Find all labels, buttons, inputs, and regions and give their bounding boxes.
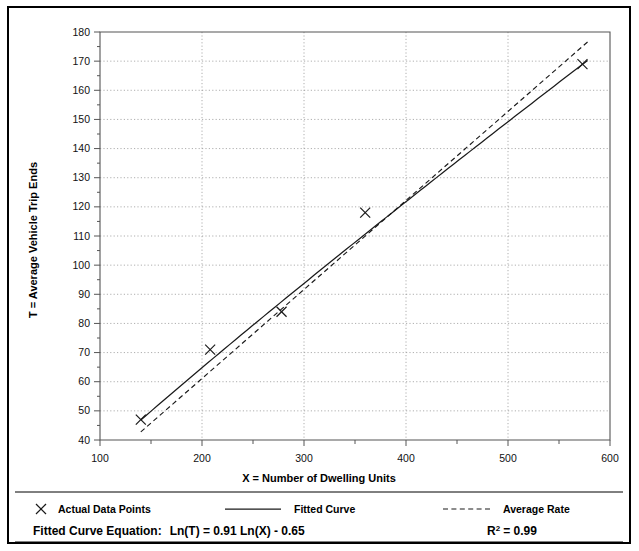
- y-tick-label: 150: [72, 113, 90, 125]
- y-tick-label: 170: [72, 55, 90, 67]
- data-point-marker: [136, 415, 146, 425]
- legend-item-fitted-curve: Fitted Curve: [225, 503, 355, 515]
- axis-ticks: [94, 32, 610, 446]
- legend-label-actual-data-points: Actual Data Points: [58, 503, 151, 515]
- chart-footer: Fitted Curve Equation:Ln(T) = 0.91 Ln(X)…: [33, 524, 537, 538]
- data-point-marker: [277, 307, 287, 317]
- y-tick-label: 140: [72, 142, 90, 154]
- y-tick-label: 70: [78, 346, 90, 358]
- y-tick-label: 60: [78, 375, 90, 387]
- y-tick-label: 160: [72, 84, 90, 96]
- chart-figure-frame: 4050607080901001101201301401501601701801…: [7, 6, 631, 544]
- data-point-marker: [205, 345, 215, 355]
- y-axis-title: T = Average Vehicle Trip Ends: [27, 162, 39, 318]
- legend-item-average-rate: Average Rate: [443, 503, 570, 515]
- y-tick-label: 90: [78, 288, 90, 300]
- legend-item-actual-data-points: Actual Data Points: [36, 503, 151, 515]
- fitted-curve-line: [141, 60, 588, 420]
- y-tick-label: 100: [72, 259, 90, 271]
- grid-lines: [100, 32, 610, 440]
- x-marker-icon: [36, 504, 46, 514]
- chart-legend: Actual Data Points Fitted Curve Average …: [36, 503, 570, 515]
- trip-generation-chart: 4050607080901001101201301401501601701801…: [9, 8, 629, 542]
- y-tick-label: 120: [72, 200, 90, 212]
- x-axis-title: X = Number of Dwelling Units: [242, 472, 396, 484]
- fitted-curve-equation-label: Fitted Curve Equation:Ln(T) = 0.91 Ln(X)…: [33, 524, 305, 538]
- chart-plot-container: 4050607080901001101201301401501601701801…: [9, 8, 629, 542]
- r-squared-value: R2= 0.99: [487, 524, 537, 538]
- tick-labels: 4050607080901001101201301401501601701801…: [72, 26, 618, 464]
- x-tick-label: 500: [499, 452, 517, 464]
- legend-label-average-rate: Average Rate: [503, 503, 570, 515]
- x-tick-label: 600: [601, 452, 619, 464]
- x-tick-label: 400: [397, 452, 415, 464]
- data-series: [136, 42, 588, 432]
- actual-data-point-markers: [136, 59, 588, 425]
- y-tick-label: 50: [78, 404, 90, 416]
- y-tick-label: 130: [72, 171, 90, 183]
- x-tick-label: 200: [193, 452, 211, 464]
- data-point-marker: [360, 208, 370, 218]
- y-tick-label: 80: [78, 317, 90, 329]
- data-point-marker: [577, 59, 587, 69]
- x-tick-label: 300: [295, 452, 313, 464]
- y-tick-label: 180: [72, 26, 90, 38]
- legend-label-fitted-curve: Fitted Curve: [294, 503, 355, 515]
- x-tick-label: 100: [91, 452, 109, 464]
- y-tick-label: 110: [73, 230, 90, 242]
- y-tick-label: 40: [78, 434, 90, 446]
- average-rate-line: [141, 42, 588, 432]
